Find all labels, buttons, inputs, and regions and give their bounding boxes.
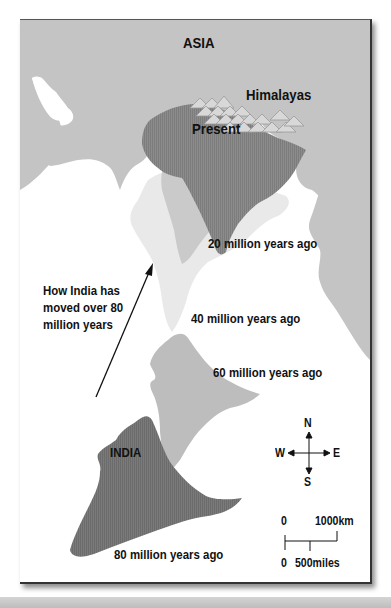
india-label: INDIA <box>110 445 141 460</box>
scale-km-max: 1000km <box>315 514 354 528</box>
scale-mi-mid: 500miles <box>295 556 340 570</box>
movement-note-line: million years <box>43 316 123 333</box>
india-60ma <box>150 334 260 473</box>
india-80ma <box>70 416 242 556</box>
scale-mi-zero: 0 <box>281 556 287 570</box>
himalayas-label: Himalayas <box>246 86 311 103</box>
label-40-million-years: 40 million years ago <box>191 311 300 326</box>
label-60-million-years: 60 million years ago <box>213 365 322 380</box>
compass-west: W <box>275 446 285 460</box>
movement-note-line: moved over 80 <box>43 299 123 316</box>
label-20-million-years: 20 million years ago <box>208 236 317 251</box>
label-80-million-years: 80 million years ago <box>114 547 223 562</box>
asia-label: ASIA <box>183 34 215 51</box>
scale-km-zero: 0 <box>281 514 287 528</box>
compass-north: N <box>304 416 312 430</box>
map-frame: ASIA Himalayas Present 20 million years … <box>20 19 372 584</box>
movement-note-line: How India has <box>43 282 123 299</box>
movement-note: How India has moved over 80 million year… <box>43 282 123 333</box>
compass-east: E <box>333 446 340 460</box>
compass-south: S <box>304 475 311 489</box>
present-label: Present <box>192 120 240 137</box>
scale-bar <box>285 531 337 551</box>
compass-rose <box>288 432 330 474</box>
page-bottom-band <box>0 597 391 608</box>
